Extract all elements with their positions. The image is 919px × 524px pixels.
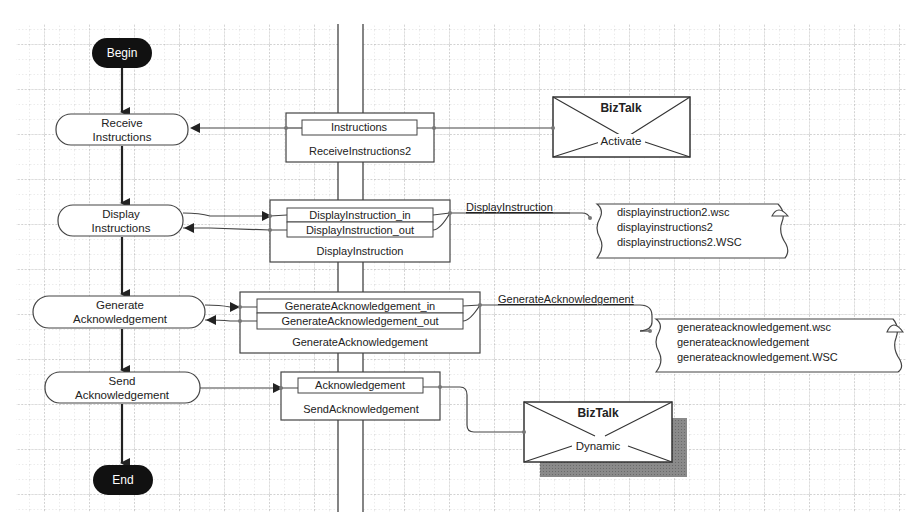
step-label-line2: Instructions xyxy=(92,222,151,234)
binding-subtitle: Dynamic xyxy=(576,440,621,452)
end-node[interactable]: End xyxy=(93,465,153,495)
port-display-instruction[interactable]: DisplayInstruction_in DisplayInstruction… xyxy=(270,200,450,262)
component-line: displayinstructions2.WSC xyxy=(617,236,742,248)
port-label: GenerateAcknowledgement xyxy=(292,336,428,348)
step-display-instructions[interactable]: Display Instructions xyxy=(58,205,183,236)
step-receive-instructions[interactable]: Receive Instructions xyxy=(56,114,188,145)
connection-label-display-instruction[interactable]: DisplayInstruction xyxy=(466,201,553,213)
connection-label-generate-acknowledgement[interactable]: GenerateAcknowledgement xyxy=(498,293,634,305)
component-line: displayinstructions2 xyxy=(617,221,713,233)
step-label-line2: Acknowledgement xyxy=(73,313,168,325)
port-generate-acknowledgement[interactable]: GenerateAcknowledgement_in GenerateAckno… xyxy=(240,292,480,353)
binding-title: BizTalk xyxy=(600,101,641,115)
end-label: End xyxy=(112,473,133,487)
component-line: displayinstruction2.wsc xyxy=(617,206,730,218)
step-label-line1: Receive xyxy=(101,117,143,129)
step-label-line1: Generate xyxy=(96,299,144,311)
component-line: generateacknowledgement.WSC xyxy=(677,351,838,363)
orchestration-canvas: Begin Receive Instructions Display Instr… xyxy=(0,0,919,524)
message-label: DisplayInstruction_in xyxy=(309,209,411,221)
message-label: GenerateAcknowledgement_out xyxy=(281,315,438,327)
component-line: generateacknowledgement.wsc xyxy=(677,321,832,333)
binding-biztalk-activate[interactable]: BizTalk Activate xyxy=(553,97,690,157)
step-send-acknowledgement[interactable]: Send Acknowledgement xyxy=(45,372,200,403)
binding-biztalk-dynamic[interactable]: BizTalk Dynamic xyxy=(524,402,687,477)
begin-node[interactable]: Begin xyxy=(92,38,152,68)
port-receive-instructions2[interactable]: Instructions ReceiveInstructions2 xyxy=(286,113,434,162)
message-label: Acknowledgement xyxy=(315,379,405,391)
port-send-acknowledgement[interactable]: Acknowledgement SendAcknowledgement xyxy=(281,372,440,420)
message-label: DisplayInstruction_out xyxy=(306,224,414,236)
binding-subtitle: Activate xyxy=(601,135,642,147)
step-generate-acknowledgement[interactable]: Generate Acknowledgement xyxy=(33,296,205,328)
step-label-line2: Acknowledgement xyxy=(75,389,170,401)
separator-band xyxy=(338,24,363,512)
step-label-line1: Send xyxy=(109,375,136,387)
component-generate-acknowledgement[interactable]: generateacknowledgement.wsc generateackn… xyxy=(656,319,903,372)
component-line: generateacknowledgement xyxy=(677,336,809,348)
port-label: ReceiveInstructions2 xyxy=(309,145,411,157)
message-label: GenerateAcknowledgement_in xyxy=(285,300,435,312)
step-label-line1: Display xyxy=(102,208,140,220)
component-display-instruction[interactable]: displayinstruction2.wsc displayinstructi… xyxy=(597,204,788,258)
step-label-line2: Instructions xyxy=(93,131,152,143)
grid-background xyxy=(16,24,906,512)
port-label: DisplayInstruction xyxy=(317,245,404,257)
binding-title: BizTalk xyxy=(577,406,618,420)
port-label: SendAcknowledgement xyxy=(303,403,419,415)
message-label: Instructions xyxy=(331,121,388,133)
begin-label: Begin xyxy=(107,46,138,60)
